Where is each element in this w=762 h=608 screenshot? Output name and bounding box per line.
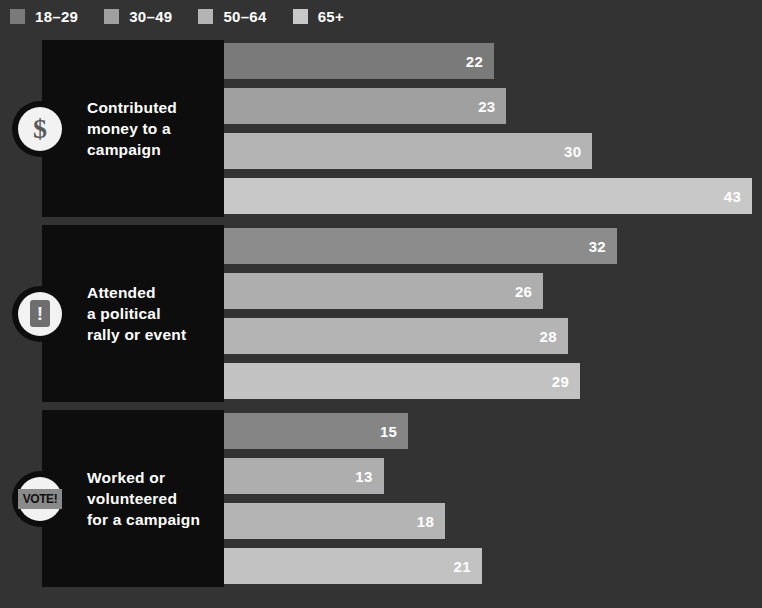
bar-row: 13 xyxy=(224,458,762,494)
bar-row: 23 xyxy=(224,88,762,124)
group-label-line: volunteered xyxy=(87,488,200,509)
bar[interactable]: 21 xyxy=(224,548,482,584)
bar-row: 22 xyxy=(224,43,762,79)
bar-value-label: 29 xyxy=(552,373,580,390)
bar-value-label: 21 xyxy=(454,558,482,575)
bar-row: 18 xyxy=(224,503,762,539)
bar-row: 28 xyxy=(224,318,762,354)
bar-value-label: 28 xyxy=(540,328,568,345)
bar-value-label: 26 xyxy=(515,283,543,300)
bar-value-label: 13 xyxy=(355,468,383,485)
bar[interactable]: 22 xyxy=(224,43,494,79)
bar-row: 30 xyxy=(224,133,762,169)
bar-group: VOTE!Worked orvolunteeredfor a campaign1… xyxy=(0,410,762,587)
bar-row: 21 xyxy=(224,548,762,584)
legend-swatch-icon xyxy=(104,9,119,24)
bar[interactable]: 28 xyxy=(224,318,568,354)
bar[interactable]: 30 xyxy=(224,133,592,169)
bar[interactable]: 23 xyxy=(224,88,506,124)
group-label-line: Worked or xyxy=(87,467,200,488)
legend-label: 50–64 xyxy=(223,8,266,25)
legend-swatch-icon xyxy=(198,9,213,24)
bar-value-label: 15 xyxy=(380,423,408,440)
legend-label: 65+ xyxy=(318,8,344,25)
legend-item[interactable]: 50–64 xyxy=(198,8,266,25)
bar-row: 15 xyxy=(224,413,762,449)
group-label: Worked orvolunteeredfor a campaign xyxy=(87,467,200,530)
bar[interactable]: 18 xyxy=(224,503,445,539)
bar[interactable]: 43 xyxy=(224,178,752,214)
group-label-line: for a campaign xyxy=(87,509,200,530)
bar-stack: 22233043 xyxy=(224,40,762,217)
bar[interactable]: 29 xyxy=(224,363,580,399)
bar[interactable]: 13 xyxy=(224,458,384,494)
legend-item[interactable]: 65+ xyxy=(293,8,344,25)
bar-row: 26 xyxy=(224,273,762,309)
group-label-line: rally or event xyxy=(87,324,186,345)
vote-badge-icon: VOTE! xyxy=(12,471,68,527)
bar-stack: 15131821 xyxy=(224,410,762,587)
dollar-sign-icon-face: $ xyxy=(18,107,62,151)
vote-label: VOTE! xyxy=(23,492,58,506)
legend-label: 18–29 xyxy=(35,8,78,25)
bar[interactable]: 26 xyxy=(224,273,543,309)
vote-badge-icon-face: VOTE! xyxy=(18,477,62,521)
legend-swatch-icon xyxy=(10,9,25,24)
legend-item[interactable]: 18–29 xyxy=(10,8,78,25)
group-label: Contributedmoney to acampaign xyxy=(87,97,177,160)
legend-item[interactable]: 30–49 xyxy=(104,8,172,25)
bar[interactable]: 15 xyxy=(224,413,408,449)
bar-chart: $Contributedmoney to acampaign22233043!A… xyxy=(0,32,762,608)
bar-value-label: 43 xyxy=(724,188,752,205)
bar-group: !Attendeda politicalrally or event322628… xyxy=(0,225,762,402)
group-label: Attendeda politicalrally or event xyxy=(87,282,186,345)
bar-group: $Contributedmoney to acampaign22233043 xyxy=(0,40,762,217)
legend-swatch-icon xyxy=(293,9,308,24)
bar-value-label: 23 xyxy=(478,98,506,115)
bar-row: 43 xyxy=(224,178,762,214)
group-label-line: money to a xyxy=(87,118,177,139)
group-label-line: campaign xyxy=(87,139,177,160)
bar-value-label: 30 xyxy=(564,143,592,160)
exclamation-mark-icon-face: ! xyxy=(18,292,62,336)
exclamation-box: ! xyxy=(30,300,50,327)
group-label-line: a political xyxy=(87,303,186,324)
group-label-line: Attended xyxy=(87,282,186,303)
dollar-sign-icon: $ xyxy=(12,101,68,157)
legend-label: 30–49 xyxy=(129,8,172,25)
bar-row: 29 xyxy=(224,363,762,399)
bar-value-label: 32 xyxy=(589,238,617,255)
exclamation-mark-icon: ! xyxy=(12,286,68,342)
group-label-line: Contributed xyxy=(87,97,177,118)
bar-row: 32 xyxy=(224,228,762,264)
bar-value-label: 18 xyxy=(417,513,445,530)
bar[interactable]: 32 xyxy=(224,228,617,264)
exclamation-glyph: ! xyxy=(37,304,43,323)
bar-value-label: 22 xyxy=(466,53,494,70)
legend: 18–2930–4950–6465+ xyxy=(0,0,762,32)
dollar-glyph: $ xyxy=(33,115,47,143)
bar-stack: 32262829 xyxy=(224,225,762,402)
